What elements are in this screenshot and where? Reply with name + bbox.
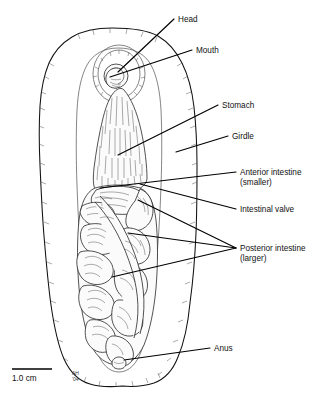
label-head: Head [178,15,198,24]
label-intestinal-valve: Intestinal valve [240,205,295,214]
artist-signature: AH '04 [72,370,79,382]
mouth-opening [104,64,128,88]
label-stomach: Stomach [222,101,255,110]
scale-bar-label: 1.0 cm [12,374,37,383]
chiton-anatomy-figure: HeadMouthStomachGirdleAnterior intestine… [0,0,325,403]
label-anus: Anus [214,344,233,353]
label-girdle: Girdle [232,132,254,141]
signature-line-2: '04 [72,376,79,382]
label-mouth: Mouth [196,46,219,55]
anus [112,357,126,369]
